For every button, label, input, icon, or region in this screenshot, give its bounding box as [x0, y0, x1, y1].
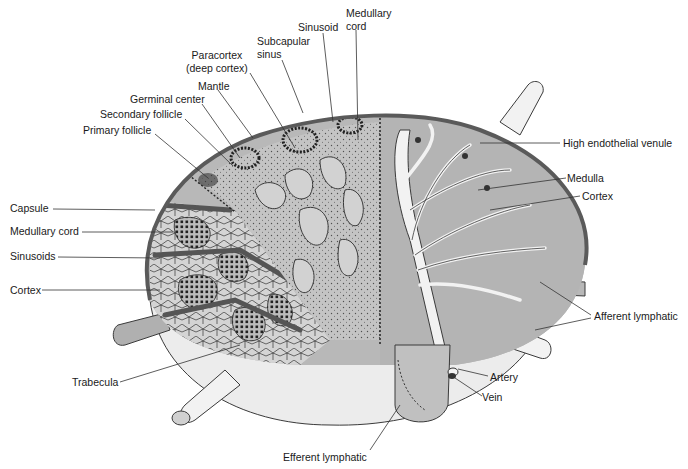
label-secondary-follicle: Secondary follicle	[100, 108, 182, 121]
label-capsule: Capsule	[10, 202, 49, 215]
label-vein: Vein	[482, 391, 502, 404]
label-sinusoids: Sinusoids	[10, 250, 56, 263]
lymph-node-diagram	[0, 0, 688, 469]
label-germinal-center: Germinal center	[130, 93, 205, 106]
label-afferent-lymphatic: Afferent lymphatic	[594, 310, 678, 323]
label-medullary-cord-top: Medullarycord	[346, 7, 392, 33]
label-high-endothelial-venule: High endothelial venule	[563, 137, 672, 150]
label-cortex-right: Cortex	[582, 190, 613, 203]
label-sinusoid: Sinusoid	[298, 21, 338, 34]
label-subcapsular-sinus: Subcapularsinus	[257, 35, 310, 61]
label-medulla: Medulla	[567, 172, 604, 185]
label-mantle: Mantle	[198, 80, 230, 93]
label-medullary-cord-left: Medullary cord	[10, 225, 79, 238]
label-artery: Artery	[490, 371, 518, 384]
label-primary-follicle: Primary follicle	[83, 124, 151, 137]
label-efferent-lymphatic: Efferent lymphatic	[283, 451, 367, 464]
label-cortex-left: Cortex	[10, 284, 41, 297]
label-paracortex: Paracortex(deep cortex)	[186, 49, 248, 75]
label-trabecula: Trabecula	[72, 376, 118, 389]
efferent-lymphatic-vessel	[395, 345, 450, 422]
